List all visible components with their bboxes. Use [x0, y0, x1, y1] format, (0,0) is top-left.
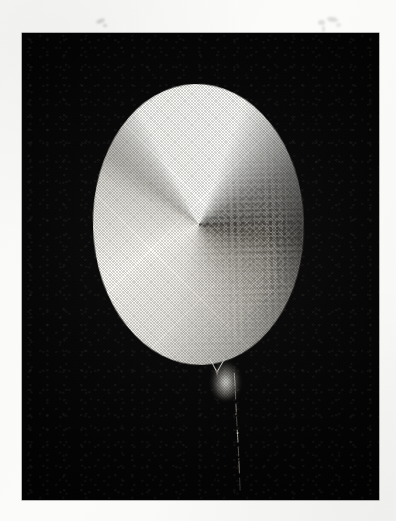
- scan-smudge-icon: [322, 26, 325, 32]
- scanned-page: [0, 0, 396, 521]
- scan-smudge-icon: [327, 16, 339, 23]
- scan-smudge-icon: [103, 24, 107, 27]
- caption: [0, 500, 396, 521]
- balloon-string: [192, 371, 252, 500]
- balloon-rim-specular: [89, 81, 308, 368]
- photographic-plate: [22, 33, 379, 500]
- scan-smudge-icon: [318, 20, 325, 25]
- balloon: [90, 82, 307, 367]
- scan-smudge-icon: [336, 23, 341, 27]
